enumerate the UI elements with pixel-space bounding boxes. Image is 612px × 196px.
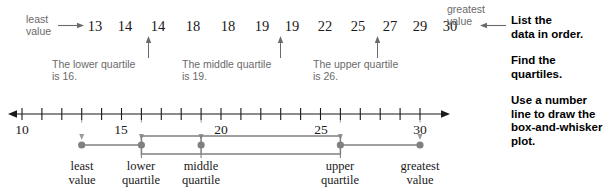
plot-caption-greatest-value: greatest value: [380, 160, 460, 187]
step-find-quartiles: Find thequartiles.: [511, 54, 611, 81]
greatest-value-callout-line2: value: [447, 16, 485, 28]
middle-quartile-pointer-icon: [276, 36, 285, 58]
middle-quartile-caption-line1: The middle quartile: [182, 58, 332, 70]
upper-quartile-caption-line2: is 26.: [313, 70, 463, 82]
plot-caption-line1: middle: [161, 160, 241, 174]
plot-caption-upper-quartile: upper quartile: [300, 160, 380, 187]
plot-caption-middle-quartile: middle quartile: [161, 160, 241, 187]
upper-quartile-pointer-icon: [373, 36, 382, 58]
upper-quartile-caption-line1: The upper quartile: [313, 58, 463, 70]
step-list-data: List thedata in order.: [511, 14, 611, 41]
worksheet-page: least value 13 14 14 18 18 19 19 22 25 2…: [0, 0, 612, 196]
data-value: 14: [147, 18, 169, 35]
greatest-value-callout-line1: greatest: [447, 4, 485, 16]
data-value: 25: [347, 18, 369, 35]
lower-quartile-caption-line2: is 16.: [52, 70, 202, 82]
middle-quartile-caption-line2: is 19.: [182, 70, 332, 82]
data-value: 19: [281, 18, 303, 35]
lower-quartile-pointer-icon: [144, 36, 153, 58]
least-value-callout-line2: value: [26, 26, 51, 38]
data-value: 18: [217, 18, 239, 35]
plot-point-upper-quartile: [337, 141, 344, 148]
middle-quartile-caption: The middle quartile is 19.: [182, 58, 332, 82]
box-and-whisker-plot: [0, 118, 460, 158]
step-draw-plot: Use a numberline to draw thebox-and-whis…: [511, 94, 611, 148]
least-value-arrow-icon: [58, 22, 84, 29]
lower-quartile-caption: The lower quartile is 16.: [52, 58, 202, 82]
plot-caption-line2: value: [380, 174, 460, 188]
data-value: 19: [251, 18, 273, 35]
plot-point-middle-quartile: [198, 141, 205, 148]
plot-point-greatest-value: [416, 141, 423, 148]
data-value: 13: [84, 18, 106, 35]
data-value: 22: [314, 18, 336, 35]
upper-quartile-caption: The upper quartile is 26.: [313, 58, 463, 82]
lower-quartile-caption-line1: The lower quartile: [52, 58, 202, 70]
greatest-value-callout: greatest value: [447, 4, 485, 27]
plot-caption-line1: greatest: [380, 160, 460, 174]
data-value: 14: [114, 18, 136, 35]
data-value: 29: [409, 18, 431, 35]
steps-column: List thedata in order. Find thequartiles…: [511, 14, 611, 161]
least-value-callout: least value: [26, 14, 51, 37]
data-value: 18: [182, 18, 204, 35]
plot-caption-line1: upper: [300, 160, 380, 174]
plot-point-lower-quartile: [138, 141, 145, 148]
plot-caption-line2: quartile: [300, 174, 380, 188]
data-value: 27: [379, 18, 401, 35]
ordered-data-row: least value 13 14 14 18 18 19 19 22 25 2…: [0, 10, 500, 50]
plot-point-least-value: [78, 141, 85, 148]
plot-caption-line2: quartile: [161, 174, 241, 188]
least-value-callout-line1: least: [26, 14, 51, 26]
